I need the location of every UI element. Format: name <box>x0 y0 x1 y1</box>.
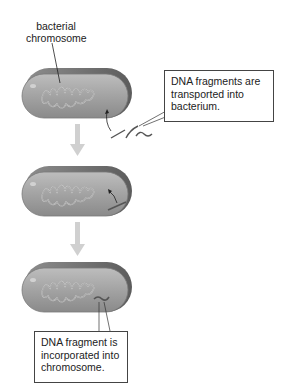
callout-incorporation: DNA fragment is incorporated into chromo… <box>34 331 128 383</box>
bacterium-stage-3 <box>22 262 132 312</box>
bacterium-stage-2 <box>22 166 132 216</box>
dna-fragments <box>111 126 152 138</box>
down-arrow-2 <box>70 222 85 256</box>
chromosome-label: bacterial chromosome <box>26 20 86 44</box>
down-arrow-1 <box>70 124 85 156</box>
callout-transport: DNA fragments are transported into bacte… <box>164 70 274 122</box>
bacterium-stage-1 <box>22 68 132 118</box>
